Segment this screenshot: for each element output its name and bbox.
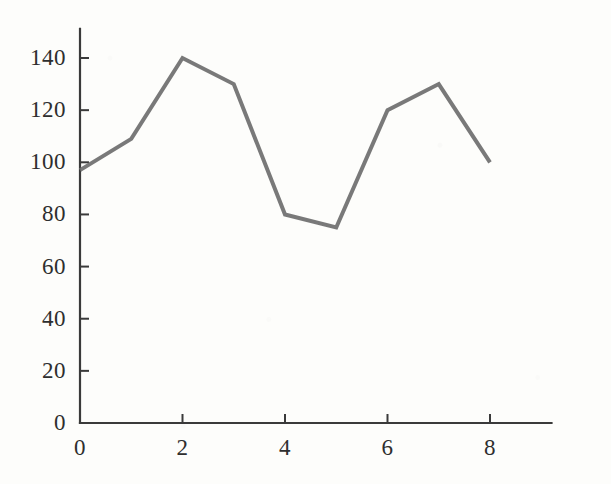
x-tick-label-6: 6 bbox=[382, 435, 394, 461]
data-line-series-1 bbox=[80, 58, 490, 227]
y-tick-label-20: 20 bbox=[42, 358, 66, 384]
y-tick-label-100: 100 bbox=[30, 149, 66, 175]
y-tick-label-140: 140 bbox=[30, 45, 66, 71]
x-tick-label-4: 4 bbox=[279, 435, 291, 461]
y-tick-label-120: 120 bbox=[30, 97, 66, 123]
y-tick-label-40: 40 bbox=[42, 306, 66, 332]
x-tick-label-8: 8 bbox=[484, 435, 496, 461]
x-tick-label-2: 2 bbox=[177, 435, 189, 461]
line-chart: 020406080100120140 02468 bbox=[0, 0, 611, 484]
plot-area bbox=[0, 0, 611, 484]
y-tick-label-0: 0 bbox=[54, 410, 66, 436]
y-tick-label-60: 60 bbox=[42, 254, 66, 280]
y-tick-label-80: 80 bbox=[42, 201, 66, 227]
x-tick-label-0: 0 bbox=[74, 435, 86, 461]
